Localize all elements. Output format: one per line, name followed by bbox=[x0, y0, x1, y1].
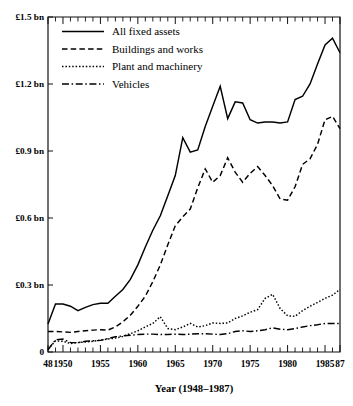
x-tick-label: 1960 bbox=[128, 359, 147, 369]
x-axis-ticks-top bbox=[48, 17, 340, 24]
x-tick-label: 1985 bbox=[316, 359, 335, 369]
y-tick-label: £1.5 bn bbox=[15, 12, 44, 22]
legend-label: Buildings and works bbox=[112, 43, 203, 55]
y-tick-label: £0.6 bn bbox=[15, 213, 44, 223]
legend-label: All fixed assets bbox=[112, 25, 180, 37]
x-tick-label: 1975 bbox=[241, 359, 260, 369]
x-axis-title: Year (1948–1987) bbox=[155, 383, 234, 395]
data-series-group bbox=[48, 38, 340, 350]
x-tick-label: 1980 bbox=[278, 359, 297, 369]
legend-label: Plant and machinery bbox=[112, 60, 203, 72]
series-line-buildings-and-works bbox=[48, 116, 340, 332]
series-line-plant-and-machinery bbox=[48, 289, 340, 349]
y-tick-label: £1.2 bn bbox=[15, 79, 44, 89]
x-axis-tick-labels: 481950195519601965197019751980198587 bbox=[43, 359, 345, 369]
y-tick-label: £0.3 bn bbox=[15, 280, 44, 290]
x-tick-label: 1950 bbox=[54, 359, 73, 369]
x-tick-label: 48 bbox=[43, 359, 53, 369]
line-chart: £1.5 bn£1.2 bn£0.9 bn£0.6 bn£0.3 bn0 481… bbox=[0, 0, 353, 406]
series-line-all-fixed-assets bbox=[48, 38, 340, 324]
chart-container: £1.5 bn£1.2 bn£0.9 bn£0.6 bn£0.3 bn0 481… bbox=[0, 0, 353, 406]
chart-legend: All fixed assetsBuildings and worksPlant… bbox=[62, 25, 203, 90]
legend-label: Vehicles bbox=[112, 78, 149, 90]
y-axis-ticks bbox=[48, 17, 53, 352]
x-tick-label: 1955 bbox=[91, 359, 110, 369]
x-tick-label: 87 bbox=[335, 359, 345, 369]
series-line-vehicles bbox=[48, 323, 340, 349]
y-tick-label: 0 bbox=[39, 347, 44, 357]
x-axis-ticks bbox=[48, 345, 340, 352]
y-axis-tick-labels: £1.5 bn£1.2 bn£0.9 bn£0.6 bn£0.3 bn0 bbox=[15, 12, 44, 357]
x-tick-label: 1970 bbox=[203, 359, 222, 369]
x-tick-label: 1965 bbox=[166, 359, 185, 369]
y-tick-label: £0.9 bn bbox=[15, 146, 44, 156]
